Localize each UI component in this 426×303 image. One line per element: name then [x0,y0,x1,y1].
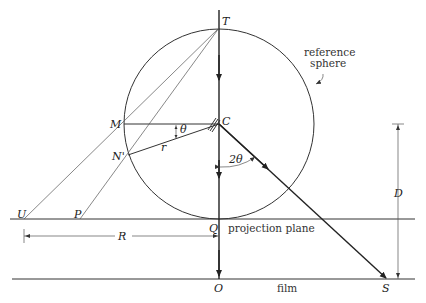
label-M: M [109,118,122,131]
reference-sphere-pointer [316,74,323,84]
label-r: r [161,141,167,154]
label-Q: Q [209,222,218,235]
label-T: T [222,15,231,28]
label-P: P [73,208,82,221]
crystal-planes-icon [208,118,220,132]
diffraction-geometry-diagram: T C M N' Q O S U P θ 2θ r R D reference … [0,0,426,303]
label-R: R [117,230,126,243]
label-U: U [17,208,27,221]
reference-sphere-label-line2: sphere [310,57,346,69]
projection-plane-label: projection plane [228,222,315,234]
label-O: O [214,282,223,295]
label-C: C [222,115,231,128]
label-N-prime: N' [111,150,125,163]
film-label: film [277,282,297,294]
label-D: D [393,187,403,200]
label-theta: θ [180,123,187,136]
label-two-theta: 2θ [228,153,243,166]
diffracted-beam-arrow [219,124,268,169]
radius-r [128,124,219,155]
label-S: S [382,282,390,295]
